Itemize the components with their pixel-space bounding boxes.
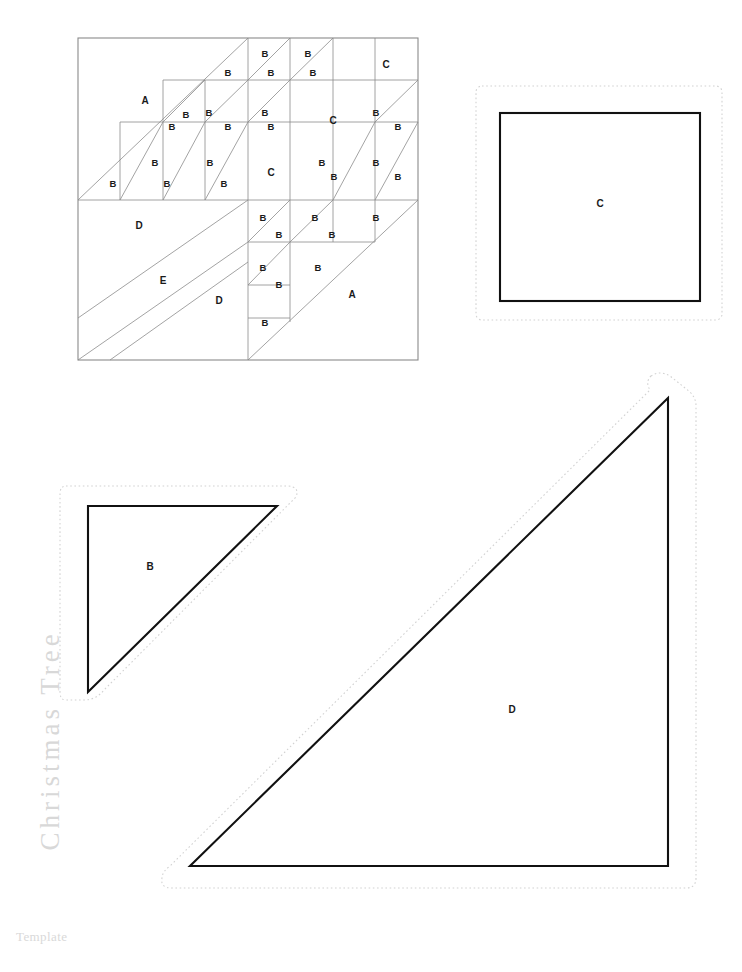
hst-label: B (262, 317, 269, 328)
hst-label: B (395, 121, 402, 132)
hst-label: B (225, 121, 232, 132)
hst-label: B (183, 109, 190, 120)
hst-label: B (373, 212, 380, 223)
page-title-vertical: Christmas Tree (35, 561, 66, 851)
hst-label: B (207, 157, 214, 168)
template-b-label: B (146, 561, 153, 572)
template-caption: Template (16, 929, 67, 945)
hst-label: B (310, 67, 317, 78)
region-label: C (382, 59, 389, 70)
hst-label: B (329, 229, 336, 240)
block-hst-labels: B B B B B B B B B B B B B B B B B B B B … (110, 48, 402, 328)
template-c-square: C (476, 86, 722, 320)
template-d-triangle: D (162, 373, 696, 888)
region-label: D (215, 295, 222, 306)
hst-label: B (268, 121, 275, 132)
hst-label: B (268, 67, 275, 78)
hst-label: B (260, 212, 267, 223)
hst-label: B (262, 48, 269, 59)
hst-label: B (221, 178, 228, 189)
hst-label: B (331, 171, 338, 182)
hst-label: B (315, 262, 322, 273)
hst-label: B (373, 107, 380, 118)
hst-label: B (206, 107, 213, 118)
template-d-label: D (508, 704, 515, 715)
hst-label: B (276, 279, 283, 290)
hst-label: B (260, 262, 267, 273)
hst-label: B (276, 229, 283, 240)
hst-label: B (395, 171, 402, 182)
hst-label: B (152, 157, 159, 168)
template-page: A C C C D E D A B B B B B B B B B B B B … (0, 0, 742, 972)
hst-label: B (169, 121, 176, 132)
region-label: A (141, 95, 148, 106)
hst-label: B (164, 178, 171, 189)
template-c-label: C (596, 198, 603, 209)
block-grid-lines (78, 38, 418, 360)
hst-label: B (305, 48, 312, 59)
template-b-cut-line (88, 506, 277, 692)
template-d-cut-line (190, 398, 668, 866)
hst-label: B (319, 157, 326, 168)
hst-label: B (262, 107, 269, 118)
hst-label: B (225, 67, 232, 78)
region-label: C (329, 115, 336, 126)
region-label: A (348, 289, 355, 300)
template-b-seam-allowance (60, 486, 297, 700)
hst-label: B (312, 212, 319, 223)
region-label: D (135, 220, 142, 231)
template-b-triangle: B (60, 486, 297, 700)
hst-label: B (110, 178, 117, 189)
quilt-block-diagram: A C C C D E D A B B B B B B B B B B B B … (0, 0, 742, 972)
hst-label: B (373, 157, 380, 168)
region-label: C (267, 167, 274, 178)
region-label: E (160, 275, 167, 286)
